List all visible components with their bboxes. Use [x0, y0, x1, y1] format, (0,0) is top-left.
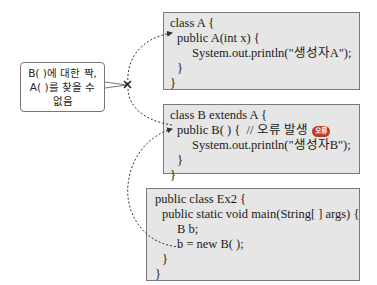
- code-line: b = new B( );: [155, 237, 359, 252]
- error-badge: 오류: [312, 126, 330, 137]
- code-text: public B( ) { // 오류 발생: [177, 123, 308, 137]
- callout-line: B( )에 대한 짝,: [21, 66, 104, 80]
- code-line-error: public B( ) { // 오류 발생오류: [170, 123, 359, 138]
- code-line: public static void main(String[ ] args) …: [155, 207, 359, 222]
- x-mark-icon: [124, 81, 131, 88]
- code-line: }: [170, 168, 359, 183]
- callout-pointer: [105, 82, 127, 88]
- code-line: public A(int x) {: [170, 31, 359, 46]
- class-a-code-box: class A { public A(int x) { System.out.p…: [163, 12, 360, 90]
- code-line: class A {: [170, 16, 359, 31]
- callout-line: A( )를 찾을 수: [21, 80, 104, 94]
- code-line: System.out.println("생성자A");: [170, 46, 359, 61]
- class-ex2-code-box: public class Ex2 { public static void ma…: [146, 188, 360, 281]
- code-line: public class Ex2 {: [155, 192, 359, 207]
- error-explanation-callout: B( )에 대한 짝, A( )를 찾을 수 없음: [20, 62, 105, 112]
- callout-line: 없음: [21, 94, 104, 108]
- code-line: System.out.println("생성자B");: [170, 138, 359, 153]
- code-line: }: [155, 267, 359, 282]
- code-line: class B extends A {: [170, 108, 359, 123]
- class-b-code-box: class B extends A { public B( ) { // 오류 …: [163, 104, 360, 174]
- code-line: B b;: [155, 222, 359, 237]
- code-line: }: [170, 76, 359, 91]
- code-line: }: [155, 252, 359, 267]
- code-line: }: [170, 153, 359, 168]
- code-line: }: [170, 61, 359, 76]
